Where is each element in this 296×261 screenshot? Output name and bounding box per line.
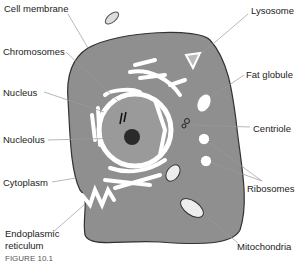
label-centriole: Centriole — [253, 123, 291, 134]
label-mitochondria: Mitochondria — [237, 241, 291, 252]
label-fat-globule: Fat globule — [246, 69, 293, 80]
label-nucleolus: Nucleolus — [3, 134, 45, 145]
figure-caption: FIGURE 10.1 — [5, 253, 53, 261]
label-chromosomes: Chromosomes — [3, 46, 65, 57]
label-cytoplasm: Cytoplasm — [3, 177, 48, 188]
label-lysosome: Lysosome — [251, 5, 294, 16]
nucleolus-shape — [124, 129, 140, 145]
label-cell-membrane: Cell membrane — [4, 3, 68, 14]
label-endoplasmic: Endoplasmic — [5, 228, 59, 239]
label-ribosomes: Ribosomes — [247, 183, 295, 194]
label-reticulum: reticulum — [5, 240, 44, 251]
cell-diagram — [0, 0, 296, 261]
ribosome-shape — [199, 134, 210, 145]
label-nucleus: Nucleus — [3, 87, 37, 98]
